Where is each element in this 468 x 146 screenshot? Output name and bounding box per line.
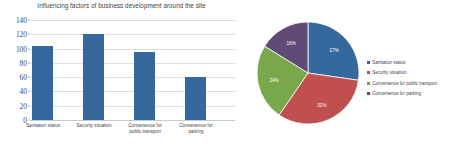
gridline [30, 20, 235, 21]
bar-category-label-0: Sanitation status [16, 123, 70, 129]
pie-slice-label-3: 16% [287, 40, 296, 45]
legend-label-3: Convenience for parking [372, 91, 421, 96]
y-axis-tick-label: 140 [16, 16, 27, 25]
dual-chart-figure: Influencing factors of business developm… [0, 0, 468, 146]
bar-category-text-1: Security situation [77, 123, 112, 128]
legend-swatch-1 [367, 71, 370, 74]
y-axis-tick-label: 40 [20, 87, 27, 96]
pie-chart-panel: 27% 32% 24% 16% Sanitation statusSecurit… [243, 0, 468, 146]
y-axis-tick-label: 20 [20, 101, 27, 110]
gridline [30, 63, 235, 64]
y-axis-tick-label: 100 [16, 44, 27, 53]
bar-category-label-1: Security situation [67, 123, 121, 129]
bar-3 [185, 77, 206, 120]
y-tick-mark [28, 34, 30, 35]
pie-slice-label-2: 24% [269, 78, 278, 83]
y-axis-tick-label: 120 [16, 30, 27, 39]
pie-slice-label-0: 27% [330, 48, 339, 53]
y-tick-mark [28, 62, 30, 63]
bar-chart-title: Influencing factors of business developm… [0, 2, 243, 9]
legend-item-3: Convenience for parking [367, 89, 467, 100]
y-axis-tick-label: 80 [20, 58, 27, 67]
legend-label-1: Security situation [372, 70, 406, 75]
y-tick-mark [28, 77, 30, 78]
gridline [30, 49, 235, 50]
bar-category-text-0: Sanitation status [26, 123, 60, 128]
y-tick-mark [28, 120, 30, 121]
y-tick-mark [28, 105, 30, 106]
legend-label-2: Convenience for public transport [372, 81, 437, 86]
legend-item-1: Security situation [367, 68, 467, 79]
bar-0 [32, 46, 53, 120]
bar-category-text-2b: public transport [118, 129, 172, 135]
legend-swatch-0 [367, 61, 370, 64]
y-tick-mark [28, 20, 30, 21]
y-tick-mark [28, 91, 30, 92]
x-axis-line [30, 120, 235, 121]
y-axis-tick-label: 60 [20, 73, 27, 82]
pie-slice-label-1: 32% [317, 102, 326, 107]
pie-svg [256, 21, 360, 125]
legend-label-0: Sanitation status [372, 60, 405, 65]
bar-chart-panel: Influencing factors of business developm… [0, 0, 243, 146]
legend-swatch-3 [367, 92, 370, 95]
bar-chart-plot-area: 020406080100120140 Sanitation status Sec… [30, 20, 235, 120]
legend-item-2: Convenience for public transport [367, 78, 467, 89]
bar-category-label-3: Convenience for parking [169, 123, 223, 135]
legend-swatch-2 [367, 82, 370, 85]
y-tick-mark [28, 48, 30, 49]
bar-category-label-2: Convenience for public transport [118, 123, 172, 135]
bar-1 [83, 34, 104, 120]
legend-item-0: Sanitation status [367, 57, 467, 68]
pie-legend: Sanitation statusSecurity situationConve… [367, 57, 467, 99]
pie-graphic: 27% 32% 24% 16% [256, 21, 360, 125]
gridline [30, 34, 235, 35]
bar-category-text-3b: parking [169, 129, 223, 135]
bar-2 [134, 52, 155, 120]
